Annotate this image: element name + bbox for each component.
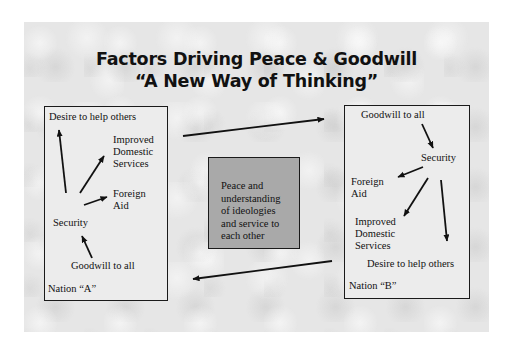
nation-a-foreign-line1: Foreign bbox=[113, 188, 146, 200]
nation-a-label: Nation “A” bbox=[48, 283, 96, 295]
nation-b-improved-line3: Services bbox=[355, 240, 391, 252]
nation-b-improved-line1: Improved bbox=[355, 216, 396, 228]
nation-a-improved-line3: Services bbox=[113, 158, 149, 170]
nation-b-goodwill: Goodwill to all bbox=[361, 109, 425, 121]
nation-b-label: Nation “B” bbox=[349, 280, 397, 292]
title-line-1: Factors Driving Peace & Goodwill bbox=[0, 48, 513, 70]
nation-b-desire: Desire to help others bbox=[367, 258, 454, 270]
nation-b-foreign-line1: Foreign bbox=[351, 176, 384, 188]
nation-b-security: Security bbox=[421, 152, 456, 164]
diagram-title: Factors Driving Peace & Goodwill “A New … bbox=[0, 48, 513, 92]
nation-b-foreign-line2: Aid bbox=[351, 188, 367, 200]
nation-a-desire: Desire to help others bbox=[49, 111, 136, 123]
nation-a-improved-line1: Improved bbox=[113, 134, 154, 146]
nation-a-security: Security bbox=[53, 217, 88, 229]
nation-b-improved-line2: Domestic bbox=[355, 228, 395, 240]
nation-a-improved-line2: Domestic bbox=[113, 146, 153, 158]
nation-a-foreign-line2: Aid bbox=[113, 200, 129, 212]
title-line-2: “A New Way of Thinking” bbox=[0, 70, 513, 92]
nation-a-goodwill: Goodwill to all bbox=[71, 260, 135, 272]
peace-understanding-text: Peace and understanding of ideologies an… bbox=[221, 180, 281, 243]
peace-understanding-box: Peace and understanding of ideologies an… bbox=[208, 157, 300, 249]
